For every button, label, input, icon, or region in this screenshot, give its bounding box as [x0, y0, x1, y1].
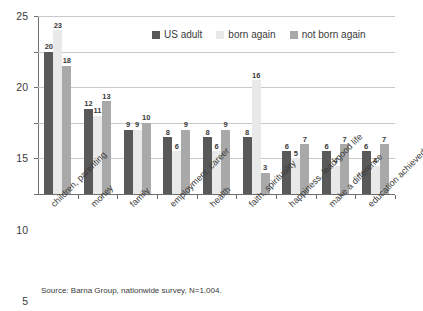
bar-group: 9910: [124, 16, 151, 194]
x-tick-mark: [236, 195, 237, 199]
bar-value-label: 7: [382, 136, 386, 144]
bar-value-label: 20: [45, 43, 53, 51]
x-tick-mark: [117, 195, 118, 199]
y-tick-label: 10: [16, 224, 28, 235]
bar-value-label: 9: [184, 121, 188, 129]
bar-value-label: 9: [126, 121, 130, 129]
bar-value-label: 9: [223, 121, 227, 129]
bar-value-label: 16: [252, 72, 260, 80]
y-tick-label: 15: [16, 153, 28, 164]
legend-item[interactable]: US adult: [152, 30, 202, 40]
bar-value-label: 12: [84, 100, 92, 108]
x-tick-mark: [276, 195, 277, 199]
bar-value-label: 6: [175, 143, 179, 151]
bar-value-label: 6: [324, 143, 328, 151]
bar[interactable]: 13: [102, 101, 111, 194]
x-tick-mark: [78, 195, 79, 199]
bar-value-label: 8: [166, 129, 170, 137]
bar[interactable]: 8: [163, 137, 172, 194]
y-axis-line: [38, 16, 39, 195]
x-tick-mark: [197, 195, 198, 199]
bar-value-label: 13: [102, 93, 110, 101]
bar-value-label: 18: [63, 57, 71, 65]
x-tick-mark: [316, 195, 317, 199]
legend-item[interactable]: not born again: [290, 30, 366, 40]
legend-label: born again: [228, 30, 275, 40]
bar[interactable]: 9: [133, 130, 142, 194]
legend-item[interactable]: born again: [216, 30, 275, 40]
bar[interactable]: 6: [172, 151, 181, 194]
bar-value-label: 8: [245, 129, 249, 137]
bar-group: 202318: [44, 16, 71, 194]
bar-value-label: 9: [135, 121, 139, 129]
bar[interactable]: 10: [142, 123, 151, 194]
bar[interactable]: 18: [62, 66, 71, 194]
y-tick-mark: 25: [34, 16, 38, 17]
bar-group: 8163: [243, 16, 270, 194]
chart-legend: US adultborn againnot born again: [152, 30, 366, 40]
bar-chart: 0510152025 20231812111399108698698163657…: [0, 0, 423, 311]
x-tick-mark: [355, 195, 356, 199]
legend-label: US adult: [164, 30, 202, 40]
bar-value-label: 7: [303, 136, 307, 144]
y-tick-label: 25: [16, 11, 28, 22]
legend-swatch-icon: [152, 31, 160, 39]
bar[interactable]: 20: [44, 52, 53, 194]
bar[interactable]: 8: [243, 137, 252, 194]
bar[interactable]: 9: [124, 130, 133, 194]
bar-value-label: 8: [205, 129, 209, 137]
bar-value-label: 3: [263, 164, 267, 172]
bar[interactable]: 12: [84, 109, 93, 194]
bar-group: 869: [163, 16, 190, 194]
bar-value-label: 10: [142, 114, 150, 122]
legend-swatch-icon: [216, 31, 224, 39]
y-tick-mark: 5: [34, 158, 38, 159]
bar[interactable]: 16: [252, 80, 261, 194]
y-tick-mark: 10: [34, 123, 38, 124]
bar[interactable]: 23: [53, 30, 62, 194]
bar-value-label: 6: [285, 143, 289, 151]
bar-value-label: 6: [364, 143, 368, 151]
y-tick-mark: 0: [34, 194, 38, 195]
bar-value-label: 6: [214, 143, 218, 151]
bar-value-label: 11: [94, 107, 102, 115]
legend-swatch-icon: [290, 31, 298, 39]
x-tick-mark: [395, 195, 396, 199]
y-tick-mark: 15: [34, 87, 38, 88]
y-tick-mark: 20: [34, 52, 38, 53]
x-tick-mark: [157, 195, 158, 199]
bar-value-label: 5: [294, 150, 298, 158]
legend-label: not born again: [302, 30, 366, 40]
bar-value-label: 23: [54, 22, 62, 30]
source-note: Source: Barna Group, nationwide survey, …: [41, 287, 222, 295]
y-tick-label: 20: [16, 82, 28, 93]
y-tick-label: 5: [22, 296, 28, 307]
